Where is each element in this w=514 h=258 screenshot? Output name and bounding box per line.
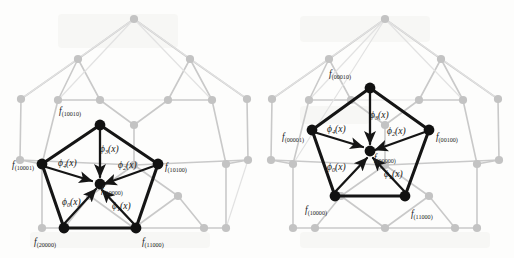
node-bottom-right <box>131 223 142 234</box>
background-graph <box>267 15 503 232</box>
arrow-phi4 <box>317 133 363 147</box>
background-graph <box>16 15 252 232</box>
node-left <box>37 159 48 170</box>
label-vertex-top: f(10010) <box>59 106 81 118</box>
right-pentagon-diagram: f(00010) f(00001) f(00100) f(10000) f(11… <box>257 0 514 258</box>
label-phi3: ϕ3(x) <box>100 144 119 155</box>
node-top <box>365 83 376 94</box>
label-phi3: ϕ3(x) <box>370 110 389 121</box>
phi-labels: ϕ0(x) ϕ1(x) ϕ2(x) ϕ3(x) ϕ4(x) <box>327 110 406 180</box>
label-vertex-right: f(00100) <box>436 132 458 144</box>
label-phi1: ϕ1(x) <box>384 169 403 180</box>
label-phi4: ϕ4(x) <box>58 158 77 169</box>
label-vertex-bottom-right: f(11000) <box>142 237 164 249</box>
node-bottom-right <box>400 191 411 202</box>
node-bottom-left <box>59 223 70 234</box>
label-phi0: ϕ0(x) <box>327 162 346 173</box>
node-right <box>424 125 435 136</box>
label-phi2: ϕ2(x) <box>387 126 406 137</box>
label-phi1: ϕ1(x) <box>112 201 131 212</box>
figure-root: f(10010) f(10001) f(10100) f(20000) f(11… <box>0 0 514 258</box>
label-vertex-bottom-right: f(11000) <box>411 209 433 221</box>
label-phi2: ϕ2(x) <box>118 160 137 171</box>
node-top <box>95 120 106 131</box>
node-right <box>153 159 164 170</box>
node-bottom-left <box>330 191 341 202</box>
label-vertex-bottom-left: f(10000) <box>305 205 327 217</box>
arrow-phi4 <box>46 167 92 181</box>
left-pentagon-diagram: f(10010) f(10001) f(10100) f(20000) f(11… <box>0 0 257 258</box>
label-phi4: ϕ4(x) <box>327 124 346 135</box>
node-center <box>95 179 106 190</box>
label-phi0: ϕ0(x) <box>62 197 81 208</box>
label-vertex-top: f(00010) <box>329 69 351 81</box>
node-left <box>307 125 318 136</box>
label-vertex-bottom-left: f(20000) <box>34 237 56 249</box>
